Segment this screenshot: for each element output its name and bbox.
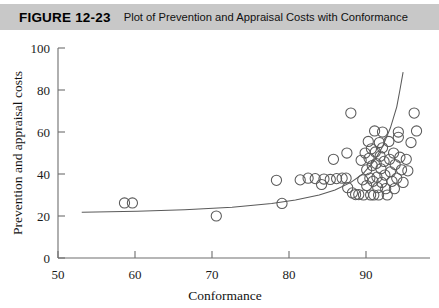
- figure-caption: Plot of Prevention and Appraisal Costs w…: [124, 11, 408, 23]
- y-axis-title: Prevention and appraisal costs: [10, 71, 25, 235]
- data-point: [406, 137, 416, 147]
- data-point: [401, 154, 411, 164]
- y-tick-label-20: 20: [37, 209, 50, 224]
- data-point: [271, 175, 281, 185]
- figure-header-bar: FIGURE 12-23 Plot of Prevention and Appr…: [0, 4, 439, 30]
- data-point: [358, 175, 368, 185]
- x-tick-label-70: 70: [206, 267, 219, 282]
- data-point: [211, 211, 221, 221]
- data-point: [127, 198, 137, 208]
- data-point: [377, 127, 387, 137]
- data-point: [277, 198, 287, 208]
- x-tick-label-60: 60: [129, 267, 142, 282]
- data-point: [346, 108, 356, 118]
- data-point: [328, 154, 338, 164]
- y-axis-ticks: [58, 48, 65, 258]
- scatter-points-group: [119, 108, 421, 221]
- y-tick-label-80: 80: [37, 83, 50, 98]
- y-tick-label-40: 40: [37, 167, 50, 182]
- x-tick-label-90: 90: [360, 267, 373, 282]
- data-point: [342, 148, 352, 158]
- data-point: [403, 166, 413, 176]
- x-tick-label-50: 50: [52, 267, 65, 282]
- data-point: [411, 126, 421, 136]
- data-point: [409, 108, 419, 118]
- y-tick-label-60: 60: [37, 125, 50, 140]
- x-axis-ticks: [58, 251, 366, 258]
- x-tick-label-80: 80: [283, 267, 296, 282]
- x-axis-title: Conformance: [188, 288, 261, 303]
- chart-plot-area: 100 80 60 40 20 0 50 60 70 80 90 Conform…: [0, 30, 439, 308]
- y-tick-label-0: 0: [44, 251, 51, 266]
- figure-number: FIGURE 12-23: [19, 10, 111, 25]
- scatter-plot-svg: 100 80 60 40 20 0 50 60 70 80 90 Conform…: [0, 30, 439, 308]
- y-tick-label-100: 100: [31, 41, 51, 56]
